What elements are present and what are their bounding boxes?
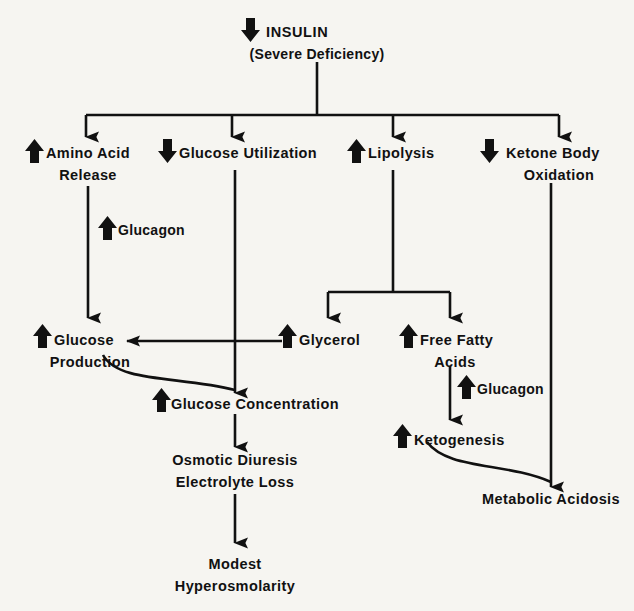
up-arrow-icon-ketogenesis <box>393 424 412 448</box>
up-arrow-icon-glucagon-right <box>457 375 476 399</box>
flowchart-canvas: INSULIN (Severe Deficiency) Amino Acid R… <box>0 0 634 611</box>
node-label-amino-acid-release-line2: Release <box>59 167 117 183</box>
node-label-osmotic-diuresis-line1: Osmotic Diuresis <box>172 452 298 468</box>
node-label-glucose-utilization: Glucose Utilization <box>179 145 317 161</box>
down-arrow-icon-glucose-utilization <box>158 139 177 163</box>
node-label-insulin: INSULIN <box>266 24 328 40</box>
node-label-glycerol: Glycerol <box>299 332 360 348</box>
node-label-glucose-production-line2: Production <box>50 354 131 370</box>
up-arrow-icon-glycerol <box>278 324 297 348</box>
label-layer: INSULIN (Severe Deficiency) Amino Acid R… <box>46 24 620 594</box>
node-label-free-fatty-acids-line2: Acids <box>434 354 476 370</box>
node-label-insulin-severity: (Severe Deficiency) <box>250 46 385 62</box>
node-label-osmotic-diuresis-line2: Electrolyte Loss <box>176 474 294 490</box>
node-label-modest-hyperosmolarity-line2: Hyperosmolarity <box>175 578 295 594</box>
connector-ketogenesis-curve <box>427 442 551 482</box>
up-arrow-icon-lipolysis <box>347 139 366 163</box>
node-label-metabolic-acidosis: Metabolic Acidosis <box>482 491 620 507</box>
down-arrow-icon-ketone-body-oxidation <box>480 139 499 163</box>
up-arrow-icon-free-fatty-acids <box>399 324 418 348</box>
down-arrow-icon-insulin <box>241 18 260 42</box>
up-arrow-icon-amino-acid-release <box>25 139 44 163</box>
node-label-modest-hyperosmolarity-line1: Modest <box>208 556 261 572</box>
node-label-amino-acid-release-line1: Amino Acid <box>46 145 130 161</box>
up-arrow-icon-glucagon-left <box>98 216 117 240</box>
node-label-glucose-concentration: Glucose Concentration <box>171 396 339 412</box>
modifier-label-glucagon-right: Glucagon <box>477 381 544 397</box>
node-label-glucose-production-line1: Glucose <box>54 332 114 348</box>
node-label-lipolysis: Lipolysis <box>368 145 434 161</box>
node-label-ketone-body-oxidation-line1: Ketone Body <box>506 145 600 161</box>
up-arrow-icon-glucose-concentration <box>152 388 171 412</box>
node-label-free-fatty-acids-line1: Free Fatty <box>420 332 493 348</box>
modifier-label-glucagon-left: Glucagon <box>118 222 185 238</box>
connector-layer <box>86 62 559 543</box>
node-label-ketogenesis: Ketogenesis <box>414 432 505 448</box>
flowchart-figure: INSULIN (Severe Deficiency) Amino Acid R… <box>0 0 634 611</box>
direction-glyph-layer <box>25 18 499 448</box>
node-label-ketone-body-oxidation-line2: Oxidation <box>524 167 594 183</box>
up-arrow-icon-glucose-production <box>33 324 52 348</box>
